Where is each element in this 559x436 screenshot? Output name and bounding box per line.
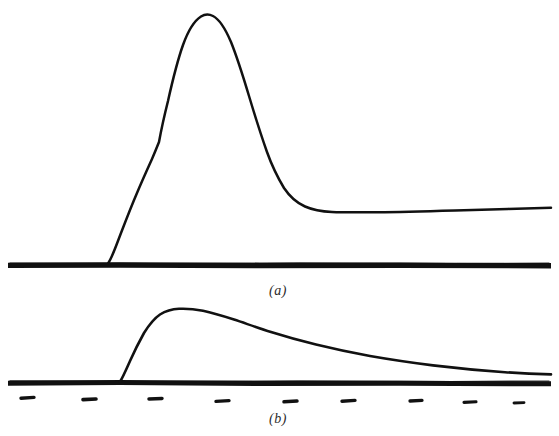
panel-label-a: (a) — [248, 283, 308, 299]
panel-a-group — [8, 15, 551, 266]
panel-a-baseline — [8, 265, 551, 266]
panel-b-tick-mark — [216, 401, 229, 402]
panel-b-baseline — [8, 383, 551, 384]
figure-canvas: (a) (b) — [0, 0, 559, 436]
panel-b-tick-mark — [21, 397, 34, 398]
figure-drawing — [0, 0, 559, 436]
panel-b-curve — [120, 309, 551, 382]
panel-a-curve — [108, 15, 551, 264]
panel-b-group — [8, 309, 551, 403]
panel-a-baseline-texture — [10, 263, 549, 264]
panel-b-tick-mark — [342, 400, 355, 401]
panel-b-tick-mark — [149, 398, 162, 399]
panel-b-tick-mark — [83, 399, 96, 400]
panel-label-b: (b) — [248, 411, 308, 427]
panel-b-baseline-texture — [10, 381, 549, 382]
panel-b-tick-marks — [21, 397, 524, 403]
panel-b-tick-mark — [284, 401, 297, 402]
panel-b-tick-mark — [410, 400, 422, 401]
panel-b-tick-mark — [464, 402, 476, 403]
